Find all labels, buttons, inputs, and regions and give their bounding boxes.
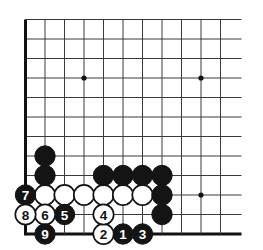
star-point-2 <box>198 75 203 80</box>
white-stone-3[interactable] <box>74 185 94 205</box>
black-stone <box>93 165 113 185</box>
move-stone-4[interactable]: 4 <box>93 204 113 224</box>
black-stone-5[interactable] <box>132 165 152 185</box>
move-number-label-4: 4 <box>100 208 108 223</box>
go-board-diagram: 123456789 <box>0 0 263 250</box>
black-stone <box>35 146 55 166</box>
move-number-label-7: 7 <box>22 188 30 203</box>
move-number-label-3: 3 <box>139 227 147 242</box>
black-stone <box>132 165 152 185</box>
white-stone <box>54 185 74 205</box>
white-stone <box>132 185 152 205</box>
white-stone <box>113 185 133 205</box>
white-stone-4[interactable] <box>93 185 113 205</box>
move-number-label-8: 8 <box>22 208 30 223</box>
black-stone-8[interactable] <box>152 204 172 224</box>
black-stone <box>152 165 172 185</box>
star-point-1 <box>81 75 86 80</box>
move-stone-2[interactable]: 2 <box>93 224 113 244</box>
white-stone-6[interactable] <box>132 185 152 205</box>
black-stone <box>113 165 133 185</box>
black-stone <box>35 165 55 185</box>
black-stone-2[interactable] <box>35 165 55 185</box>
white-stone <box>74 185 94 205</box>
white-stone-1[interactable] <box>35 185 55 205</box>
move-number-label-9: 9 <box>41 227 49 242</box>
move-stone-7[interactable]: 7 <box>15 185 35 205</box>
white-stone <box>35 185 55 205</box>
black-stone-4[interactable] <box>113 165 133 185</box>
black-stone-7[interactable] <box>152 185 172 205</box>
board-stones: 123456789 <box>15 146 172 244</box>
white-stone-2[interactable] <box>54 185 74 205</box>
black-stone-3[interactable] <box>93 165 113 185</box>
move-stone-9[interactable]: 9 <box>35 224 55 244</box>
move-number-label-1: 1 <box>119 227 127 242</box>
move-stone-6[interactable]: 6 <box>35 204 55 224</box>
move-number-label-6: 6 <box>41 208 49 223</box>
black-stone <box>152 185 172 205</box>
black-stone <box>152 204 172 224</box>
move-stone-5[interactable]: 5 <box>54 204 74 224</box>
black-stone-1[interactable] <box>35 146 55 166</box>
move-stone-1[interactable]: 1 <box>113 224 133 244</box>
star-point-3 <box>198 192 203 197</box>
move-stone-8[interactable]: 8 <box>15 204 35 224</box>
black-stone-6[interactable] <box>152 165 172 185</box>
white-stone-5[interactable] <box>113 185 133 205</box>
move-number-label-2: 2 <box>100 227 108 242</box>
go-board-canvas[interactable]: 123456789 <box>0 0 263 250</box>
move-stone-3[interactable]: 3 <box>132 224 152 244</box>
white-stone <box>93 185 113 205</box>
move-number-label-5: 5 <box>61 208 69 223</box>
